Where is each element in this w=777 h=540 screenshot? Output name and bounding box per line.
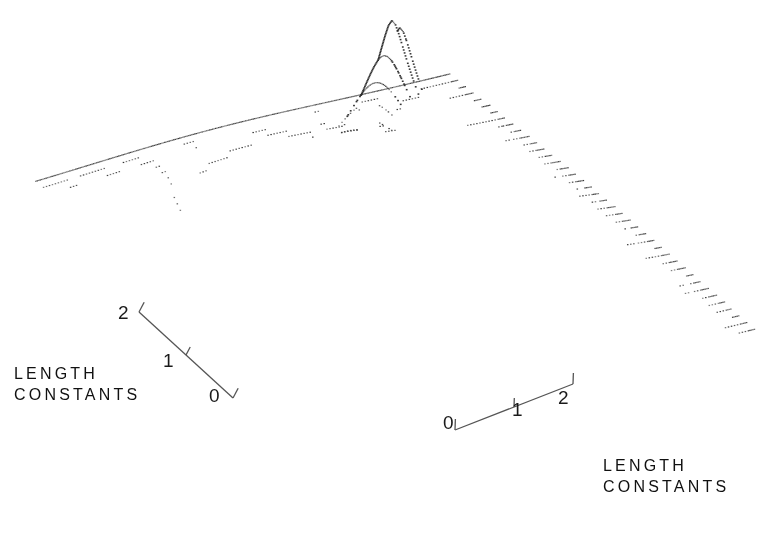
figure-3d-surface-plot: 2 1 0 LENGTH CONSTANTS 0 1 2 LENGTH CONS… (0, 0, 777, 540)
right-axis-tick-label-0: 0 (443, 413, 454, 432)
left-axis-caption-line-2: CONSTANTS (14, 384, 140, 405)
left-axis-caption-line-1: LENGTH (14, 363, 140, 384)
right-axis-caption: LENGTH CONSTANTS (603, 455, 729, 497)
right-axis-tick-label-2: 2 (558, 388, 569, 407)
right-axis-caption-line-1: LENGTH (603, 455, 729, 476)
left-axis-caption: LENGTH CONSTANTS (14, 363, 140, 405)
left-axis-tick-label-1: 1 (163, 351, 174, 370)
left-axis-tick-label-2: 2 (118, 303, 129, 322)
right-axis-tick-label-1: 1 (512, 400, 523, 419)
right-axis-caption-line-2: CONSTANTS (603, 476, 729, 497)
left-axis-tick-label-0: 0 (209, 386, 220, 405)
